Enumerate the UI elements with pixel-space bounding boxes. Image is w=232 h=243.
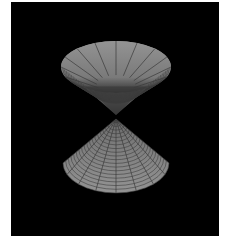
double-cone-render	[0, 0, 232, 243]
lower-cone	[63, 119, 169, 193]
upper-cone	[61, 41, 171, 115]
